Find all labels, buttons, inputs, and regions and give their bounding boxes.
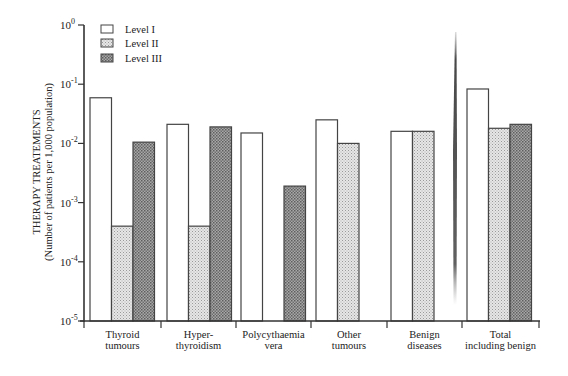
x-category-label: Other [337, 329, 361, 340]
legend-swatch-level-3 [101, 54, 113, 62]
bar-level-1 [467, 89, 489, 321]
legend-swatch-level-2 [101, 39, 113, 47]
bars [90, 89, 532, 321]
legend: Level I Level II Level III [101, 24, 163, 64]
x-category-label: including benign [465, 340, 537, 351]
y-tick-label: 100 [60, 17, 75, 31]
y-axis-title-sub: (Number of patients per 1,000 population… [43, 83, 55, 261]
bar-level-1 [241, 133, 263, 321]
y-axis-ticks: 10010-110-210-310-410-5 [60, 17, 84, 327]
y-tick-label: 10-1 [60, 76, 78, 90]
bar-level-1 [167, 124, 189, 321]
x-axis-group-separators [84, 321, 539, 328]
x-category-label: diseases [407, 340, 441, 351]
x-category-label: tumours [332, 340, 366, 351]
x-axis-category-labels: ThyroidtumoursHyper-thyroidismPolycythae… [105, 329, 536, 351]
bar-level-2 [413, 131, 435, 321]
x-category-label: Benign [409, 329, 440, 340]
y-axis-title: THERAPY TREATEMENTS (Number of patients … [31, 83, 55, 261]
y-tick-label: 10-4 [60, 254, 78, 268]
x-category-label: thyroidism [176, 340, 222, 351]
x-category-label: Total [490, 329, 512, 340]
bar-level-1 [90, 98, 112, 321]
bar-level-3 [210, 127, 232, 321]
x-category-label: Polycythaemia [242, 329, 305, 340]
bar-level-2 [112, 226, 134, 321]
x-category-label: tumours [105, 340, 139, 351]
bar-level-2 [189, 226, 211, 321]
legend-label-level-3: Level III [125, 53, 163, 64]
bar-level-2 [338, 143, 360, 321]
bar-level-2 [489, 128, 511, 321]
y-tick-label: 10-3 [60, 195, 78, 209]
bar-level-3 [284, 186, 306, 321]
y-tick-label: 10-2 [60, 135, 78, 149]
x-category-label: Thyroid [106, 329, 141, 340]
x-category-label: Hyper- [184, 329, 214, 340]
legend-label-level-2: Level II [125, 38, 159, 49]
x-category-label: vera [264, 340, 282, 351]
legend-swatch-level-1 [101, 25, 113, 33]
scan-artifact-stroke [453, 32, 457, 305]
bar-level-3 [133, 142, 155, 321]
bar-level-3 [510, 124, 532, 321]
legend-label-level-1: Level I [125, 24, 156, 35]
bar-level-1 [391, 131, 413, 321]
y-axis-title-main: THERAPY TREATEMENTS [31, 109, 42, 234]
bar-chart: THERAPY TREATEMENTS (Number of patients … [0, 0, 568, 376]
y-tick-label: 10-5 [60, 313, 78, 327]
bar-level-1 [316, 120, 338, 321]
